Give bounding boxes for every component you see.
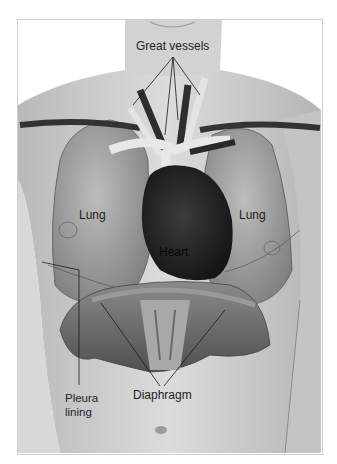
label-lung-left: Lung bbox=[79, 209, 106, 222]
label-great-vessels: Great vessels bbox=[136, 40, 209, 53]
label-heart: Heart bbox=[159, 246, 188, 259]
label-lung-right: Lung bbox=[239, 209, 266, 222]
navel bbox=[155, 426, 167, 434]
label-pleura-line2: lining bbox=[65, 406, 92, 419]
label-diaphragm: Diaphragm bbox=[133, 389, 192, 402]
label-pleura-line1: Pleura bbox=[65, 392, 98, 405]
